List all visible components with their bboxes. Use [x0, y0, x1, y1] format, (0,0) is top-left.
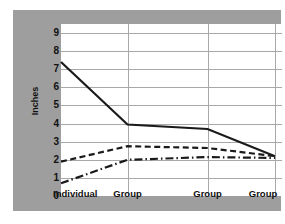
y-tick-label: 5: [37, 100, 59, 110]
y-tick-label: 3: [37, 137, 59, 147]
y-tick-label: 6: [37, 82, 59, 92]
y-tick-label: 9: [37, 28, 59, 38]
y-tick-label: 2: [37, 155, 59, 165]
x-tick-label: Individual: [53, 188, 97, 200]
y-tick-label: 1: [37, 173, 59, 183]
x-tick-label: Group: [193, 188, 222, 200]
x-tick-label: Group: [249, 188, 278, 200]
y-tick-label: 7: [37, 64, 59, 74]
y-axis-ticks: 0123456789: [33, 24, 59, 196]
y-tick-label: 4: [37, 119, 59, 129]
series-line-solid-series: [61, 62, 275, 156]
series-lines: [61, 24, 282, 196]
x-tick-label: Group: [113, 188, 142, 200]
plot-area: [61, 24, 282, 196]
y-tick-label: 8: [37, 46, 59, 56]
series-line-dash-dot-series: [61, 157, 275, 183]
chart-panel: Inches 0123456789: [13, 10, 281, 211]
chart-figure: Inches 0123456789 IndividualGroupGroupGr…: [0, 0, 285, 224]
x-axis-ticks: IndividualGroupGroupGroup: [13, 188, 281, 204]
